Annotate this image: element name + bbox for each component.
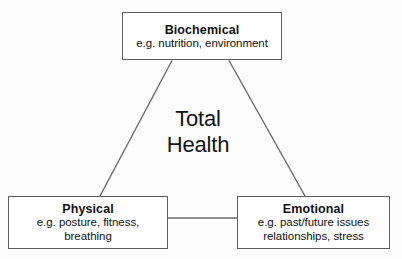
node-title-biochemical: Biochemical xyxy=(165,23,240,37)
node-title-physical: Physical xyxy=(62,202,114,216)
node-description-biochemical: e.g. nutrition, environment xyxy=(136,37,268,51)
center-label-total-health: Total Health xyxy=(146,106,250,158)
node-box-physical: Physical e.g. posture, fitness, breathin… xyxy=(8,196,168,249)
node-title-emotional: Emotional xyxy=(283,202,344,216)
node-description-physical: e.g. posture, fitness, breathing xyxy=(37,216,139,243)
total-health-triangle-diagram: Biochemical e.g. nutrition, environment … xyxy=(0,0,402,259)
node-description-emotional: e.g. past/future issues relationships, s… xyxy=(258,216,369,243)
node-box-biochemical: Biochemical e.g. nutrition, environment xyxy=(122,12,282,60)
node-box-emotional: Emotional e.g. past/future issues relati… xyxy=(237,196,390,249)
